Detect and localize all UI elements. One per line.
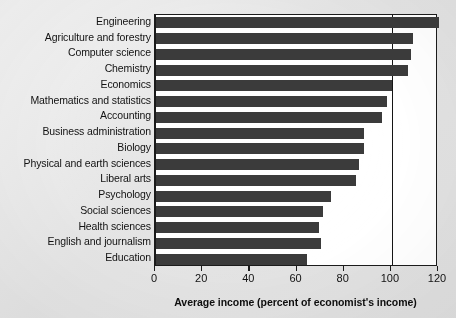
bar-fill — [156, 33, 413, 44]
category-label: Biology — [1, 142, 151, 153]
x-tick — [343, 266, 344, 271]
bar — [156, 96, 387, 107]
bar-fill — [156, 143, 364, 154]
figure-container: EngineeringAgriculture and forestryCompu… — [0, 0, 456, 318]
category-label: Education — [1, 252, 151, 263]
bar — [156, 206, 323, 217]
category-label: Engineering — [1, 16, 151, 27]
bar-fill — [156, 159, 359, 170]
category-label: Psychology — [1, 189, 151, 200]
bar — [156, 80, 392, 91]
category-label: Chemistry — [1, 63, 151, 74]
bar — [156, 143, 364, 154]
bar — [156, 238, 321, 249]
category-axis-labels: EngineeringAgriculture and forestryCompu… — [0, 14, 151, 266]
x-tick — [296, 266, 297, 271]
bar — [156, 33, 413, 44]
bar — [156, 222, 319, 233]
bar-fill — [156, 112, 382, 123]
x-tick-label: 60 — [276, 272, 316, 284]
bar-fill — [156, 238, 321, 249]
x-axis-title: Average income (percent of economist's i… — [154, 296, 437, 308]
category-label: Health sciences — [1, 221, 151, 232]
bar-fill — [156, 49, 411, 60]
bar-fill — [156, 206, 323, 217]
bar-fill — [156, 191, 331, 202]
x-tick-label: 80 — [323, 272, 363, 284]
category-label: Economics — [1, 79, 151, 90]
bar — [156, 17, 439, 28]
x-tick-label: 40 — [228, 272, 268, 284]
x-tick — [390, 266, 391, 271]
category-label: Liberal arts — [1, 173, 151, 184]
x-tick-label: 0 — [134, 272, 174, 284]
bar-fill — [156, 65, 408, 76]
bar — [156, 128, 364, 139]
category-label: Computer science — [1, 47, 151, 58]
plot-area — [156, 15, 436, 265]
bar-fill — [156, 254, 307, 265]
x-tick-label: 100 — [370, 272, 410, 284]
bar — [156, 175, 356, 186]
category-label: Social sciences — [1, 205, 151, 216]
bar — [156, 254, 307, 265]
category-label: Accounting — [1, 110, 151, 121]
bar-fill — [156, 222, 319, 233]
bar — [156, 159, 359, 170]
x-tick-label: 20 — [181, 272, 221, 284]
x-tick — [154, 266, 155, 271]
x-tick — [437, 266, 438, 271]
bar-fill — [156, 17, 439, 28]
x-tick — [201, 266, 202, 271]
bar — [156, 112, 382, 123]
bar-fill — [156, 80, 392, 91]
category-label: Business administration — [1, 126, 151, 137]
plot-frame — [154, 14, 437, 266]
category-label: English and journalism — [1, 236, 151, 247]
bar — [156, 49, 411, 60]
bar-fill — [156, 96, 387, 107]
x-tick-label: 120 — [417, 272, 456, 284]
bar — [156, 65, 408, 76]
bar-fill — [156, 128, 364, 139]
category-label: Physical and earth sciences — [1, 158, 151, 169]
bar-fill — [156, 175, 356, 186]
bar — [156, 191, 331, 202]
category-label: Mathematics and statistics — [1, 95, 151, 106]
x-tick — [248, 266, 249, 271]
category-label: Agriculture and forestry — [1, 32, 151, 43]
